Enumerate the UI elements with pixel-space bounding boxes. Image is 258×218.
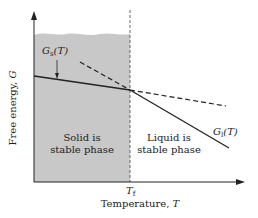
liquid-curve-label: Gl(T) — [213, 126, 238, 139]
x-axis-arrow-icon — [236, 179, 245, 185]
solid-region-label-line1: Solid is — [63, 132, 100, 143]
y-axis-label: Free energy, G — [7, 71, 18, 146]
melting-temperature-label: Tf — [126, 185, 137, 198]
x-axis-label: Temperature, T — [101, 198, 181, 209]
solid-region-label-line2: stable phase — [50, 144, 114, 155]
y-axis-arrow-icon — [31, 11, 37, 20]
liquid-region-label-line1: Liquid is — [147, 132, 191, 143]
free-energy-diagram: Gs(T) Gl(T) Solid is stable phase Liquid… — [0, 0, 258, 218]
liquid-region-label-line2: stable phase — [137, 144, 201, 155]
